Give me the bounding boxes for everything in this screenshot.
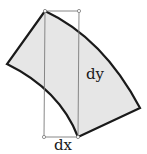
corner-marker-bottom-right xyxy=(76,135,79,138)
diagram-canvas: dy dx xyxy=(0,0,147,154)
corner-marker-top-left xyxy=(43,9,46,12)
dy-label: dy xyxy=(86,65,105,83)
corner-marker-bottom-left xyxy=(42,135,45,138)
dx-label: dx xyxy=(54,136,73,154)
corner-marker-top-right xyxy=(77,9,80,12)
curved-element xyxy=(7,11,140,137)
